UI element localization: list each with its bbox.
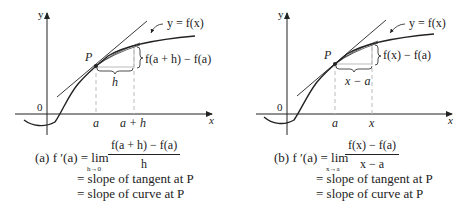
caption-a-line3: = slope of curve at P <box>77 186 184 202</box>
tick-x-label: x <box>368 116 375 130</box>
caption-a-numerator: f(a + h) − f(a) <box>108 138 180 155</box>
caption-b-numerator: f(x) − f(a) <box>345 138 399 155</box>
curve-f <box>24 36 195 126</box>
caption-a-denominator: h <box>108 155 180 172</box>
y-axis-label: y <box>278 8 284 20</box>
caption-a-prefix: (a) f ′(a) = lim <box>35 150 109 166</box>
x-axis-label: x <box>447 114 453 126</box>
caption-b-denominator: x − a <box>345 155 399 172</box>
caption-a-line2: = slope of tangent at P <box>77 171 194 187</box>
x-axis-label: x <box>208 114 214 126</box>
curve-label-pointer <box>151 24 163 33</box>
rise-label: f(a + h) − f(a) <box>145 52 211 66</box>
point-p <box>94 64 98 68</box>
caption-b-fraction: f(x) − f(a) x − a <box>345 138 399 172</box>
y-axis-label: y <box>38 8 44 20</box>
caption-b-line2: = slope of tangent at P <box>316 171 433 187</box>
caption-a-fraction: f(a + h) − f(a) h <box>108 138 180 172</box>
rise-brace <box>137 47 143 68</box>
rise-label: f(x) − f(a) <box>383 48 431 62</box>
panel-b: y x 0 P y = f(x) f(x) − f(a) x − a a x <box>256 8 453 135</box>
curve-label-pointer <box>390 24 405 33</box>
caption-b-prefix: (b) f ′(a) = lim <box>274 150 348 166</box>
panel-a: y x 0 P y = f(x) f(a + h) − f(a) h a a +… <box>15 8 214 135</box>
point-p-label: P <box>323 48 332 62</box>
caption-b-line3: = slope of curve at P <box>316 186 423 202</box>
origin-label: 0 <box>277 101 283 113</box>
run-brace <box>336 66 372 72</box>
tick-a-label: a <box>93 116 99 130</box>
tick-a-label: a <box>332 116 338 130</box>
origin-label: 0 <box>37 101 43 113</box>
tick-a-plus-h-label: a + h <box>120 116 146 130</box>
rise-brace <box>375 45 381 65</box>
point-p <box>333 62 337 66</box>
secant-line-1 <box>96 45 140 66</box>
point-p-label: P <box>84 50 93 64</box>
run-brace <box>97 68 133 74</box>
run-label: h <box>112 75 118 89</box>
curve-label: y = f(x) <box>409 16 446 30</box>
run-label: x − a <box>344 74 370 88</box>
curve-label: y = f(x) <box>167 16 204 30</box>
